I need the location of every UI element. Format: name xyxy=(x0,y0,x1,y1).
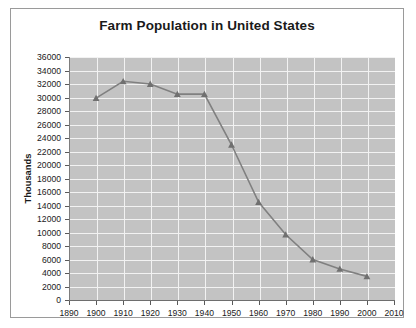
data-point-marker xyxy=(228,141,235,147)
x-axis-tick-mark xyxy=(313,301,314,305)
y-axis-tick-label: 10000 xyxy=(15,228,61,238)
x-axis-tick-mark xyxy=(123,301,124,305)
y-axis-tick-label: 26000 xyxy=(15,120,61,130)
x-axis-tick-mark xyxy=(69,301,70,305)
x-axis-tick-label: 1970 xyxy=(276,308,295,318)
x-axis-tick-label: 2000 xyxy=(357,308,376,318)
x-axis-tick-label: 1990 xyxy=(330,308,349,318)
y-axis-tick-label: 28000 xyxy=(15,106,61,116)
y-axis-tick-label: 24000 xyxy=(15,133,61,143)
data-point-marker xyxy=(255,199,262,205)
x-axis-tick-label: 1940 xyxy=(195,308,214,318)
x-axis-tick-label: 1960 xyxy=(249,308,268,318)
y-axis-tick-label: 30000 xyxy=(15,93,61,103)
y-axis-tick-label: 6000 xyxy=(15,255,61,265)
x-axis-tick-label: 1890 xyxy=(59,308,78,318)
chart-title: Farm Population in United States xyxy=(11,18,403,33)
x-axis-tick-mark xyxy=(286,301,287,305)
x-axis-tick-mark xyxy=(340,301,341,305)
y-axis-tick-label: 22000 xyxy=(15,147,61,157)
chart-container: Farm Population in United States Thousan… xyxy=(10,8,404,318)
y-axis-tick-label: 32000 xyxy=(15,79,61,89)
y-axis-tick-label: 0 xyxy=(15,295,61,305)
x-axis-tick-mark xyxy=(232,301,233,305)
x-axis-tick-mark xyxy=(204,301,205,305)
x-axis-tick-mark xyxy=(394,301,395,305)
x-axis-tick-mark xyxy=(259,301,260,305)
x-axis-tick-mark xyxy=(367,301,368,305)
x-axis-tick-label: 2010 xyxy=(384,308,403,318)
y-axis-tick-label: 12000 xyxy=(15,214,61,224)
series-polyline xyxy=(96,81,367,276)
x-axis-tick-label: 1920 xyxy=(141,308,160,318)
y-axis-tick-label: 2000 xyxy=(15,282,61,292)
x-axis-tick-label: 1900 xyxy=(87,308,106,318)
y-axis-tick-label: 20000 xyxy=(15,160,61,170)
y-axis-tick-label: 8000 xyxy=(15,241,61,251)
y-axis-tick-label: 16000 xyxy=(15,187,61,197)
x-axis-tick-mark xyxy=(96,301,97,305)
y-axis-tick-label: 14000 xyxy=(15,201,61,211)
y-axis-tick-label: 36000 xyxy=(15,52,61,62)
x-axis-tick-label: 1950 xyxy=(222,308,241,318)
x-axis-tick-mark xyxy=(150,301,151,305)
x-axis-tick-label: 1980 xyxy=(303,308,322,318)
y-axis-tick-label: 34000 xyxy=(15,66,61,76)
x-axis-tick-mark xyxy=(177,301,178,305)
y-axis-tick-label: 18000 xyxy=(15,174,61,184)
data-point-marker xyxy=(93,95,100,101)
x-axis-tick-label: 1910 xyxy=(114,308,133,318)
y-axis-tick-label: 4000 xyxy=(15,268,61,278)
x-axis-tick-label: 1930 xyxy=(168,308,187,318)
data-series-line xyxy=(69,57,394,300)
